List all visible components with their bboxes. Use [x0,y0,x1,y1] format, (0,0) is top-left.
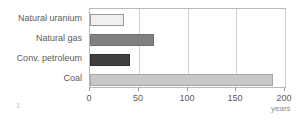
plot-area [89,8,286,88]
category-label-conv-petroleum: Conv. petroleum [0,53,82,63]
x-axis-title: years [271,104,291,113]
bar-natural-uranium[interactable] [90,14,124,26]
x-tick-label-0: 0 [74,93,104,103]
x-tick-label-150: 150 [220,93,250,103]
x-tick-200 [284,88,285,91]
x-tick-label-100: 100 [172,93,202,103]
x-tick-100 [187,88,188,91]
x-tick-150 [235,88,236,91]
figure-number: 1 [16,101,20,110]
x-tick-0 [89,88,90,91]
category-label-coal: Coal [0,73,82,83]
x-tick-label-50: 50 [123,93,153,103]
bar-coal[interactable] [90,74,273,86]
x-tick-label-200: 200 [269,93,299,103]
category-axis-labels: Natural uranium Natural gas Conv. petrol… [0,8,86,88]
category-label-natural-uranium: Natural uranium [0,13,82,23]
bar-conv-petroleum[interactable] [90,54,130,66]
bar-natural-gas[interactable] [90,34,154,46]
x-axis-ticks [89,88,286,92]
x-tick-50 [138,88,139,91]
figure-container: Natural uranium Natural gas Conv. petrol… [0,0,307,120]
category-label-natural-gas: Natural gas [0,33,82,43]
